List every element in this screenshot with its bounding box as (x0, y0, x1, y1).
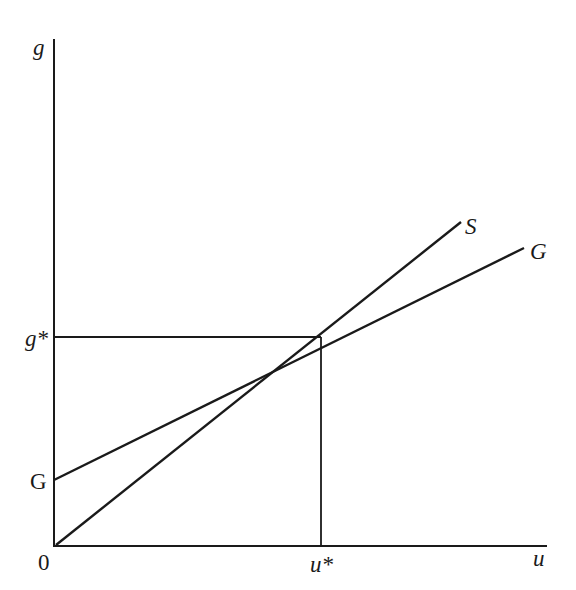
g-star-label: g* (25, 326, 49, 351)
diagram-canvas: g u 0 g* u* G S G (0, 0, 576, 590)
g-line-label: G (530, 239, 547, 264)
s-line (56, 222, 461, 545)
origin-label: 0 (38, 550, 50, 575)
x-axis-label: u (533, 546, 545, 571)
g-intercept-label: G (30, 469, 47, 494)
y-axis-label: g (33, 35, 45, 60)
g-line (54, 248, 524, 480)
s-line-label: S (465, 214, 477, 239)
u-star-label: u* (310, 552, 334, 577)
